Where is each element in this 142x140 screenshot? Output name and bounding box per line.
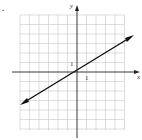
y-axis-label: y — [70, 3, 73, 10]
coordinate-graph — [0, 0, 142, 140]
line-arrow-left-icon — [20, 98, 29, 105]
line-arrow-right-icon — [125, 35, 134, 42]
problem-label: . — [2, 5, 4, 13]
x-unit-tick-label: 1 — [85, 75, 89, 82]
x-axis-label: x — [137, 74, 140, 81]
y-unit-tick-label: 1 — [70, 61, 74, 68]
axes — [12, 8, 137, 138]
y-axis-arrow-icon — [75, 5, 79, 11]
